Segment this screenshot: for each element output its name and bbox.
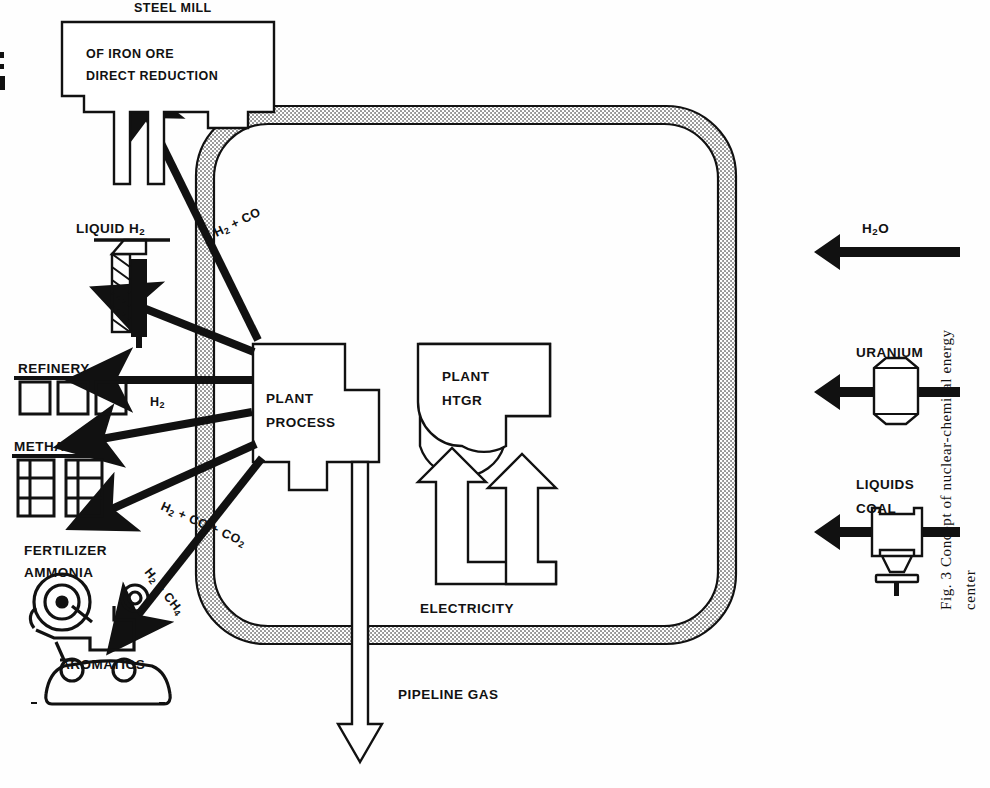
plant-label-htgr: HTGR: [442, 394, 482, 408]
pipeline-gas-arrow: [338, 462, 382, 762]
htgr-plant-block: [418, 344, 550, 477]
input-label-coal: COAL: [856, 502, 896, 516]
product-label-aromatics: AROMATICS: [60, 658, 145, 672]
tractor-icon: [30, 574, 148, 660]
plant-label-htgr-2: PLANT: [442, 370, 490, 384]
water-o: O: [878, 221, 889, 236]
input-label-liquids: LIQUIDS: [856, 478, 914, 492]
product-label-direct-reduction: DIRECT REDUCTION: [86, 70, 218, 83]
product-label-methanol: METHANOL: [14, 440, 95, 454]
product-label-liquid-h2: LIQUID H2: [76, 222, 145, 238]
electricity-label: ELECTRICITY: [420, 602, 514, 616]
h-sub-3: 2: [160, 400, 166, 410]
product-label-ammonia: AMMONIA: [24, 566, 94, 580]
product-label-fertilizer: FERTILIZER: [24, 544, 107, 558]
h-symbol-3: H: [150, 395, 160, 409]
pipeline-gas-label: PIPELINE GAS: [398, 688, 499, 702]
plant-label-process-2: PLANT: [266, 392, 314, 406]
plant-label-process: PROCESS: [266, 416, 336, 430]
stream-label-refinery: H2: [150, 396, 165, 411]
input-label-uranium: URANIUM: [856, 346, 923, 360]
valve-icon: [872, 508, 922, 596]
product-label-iron-ore: OF IRON ORE: [86, 48, 174, 61]
storage-buildings-icon: [12, 456, 108, 516]
fuel-pellet-icon: [874, 358, 918, 424]
figure-sheet: AROMATICS AMMONIA FERTILIZER METHANOL RE…: [0, 0, 990, 788]
liquid-h2-subscript: 2: [139, 226, 145, 237]
water-h: H: [862, 221, 872, 236]
product-label-steel-mill: STEEL MILL: [134, 2, 212, 15]
liquid-h2-text: LIQUID H: [76, 221, 139, 236]
tank-farm-icon: [14, 378, 134, 414]
input-label-water: H2O: [862, 222, 889, 238]
product-label-refinery: REFINERY: [18, 362, 90, 376]
rotated-figure-container: AROMATICS AMMONIA FERTILIZER METHANOL RE…: [0, 0, 990, 788]
figure-page: AROMATICS AMMONIA FERTILIZER METHANOL RE…: [0, 0, 990, 788]
diagram-canvas: [0, 0, 990, 788]
figure-caption-line1: Fig. 3 Concept of nuclear-chemical energ…: [938, 329, 955, 610]
figure-caption-line2: center: [962, 570, 979, 610]
